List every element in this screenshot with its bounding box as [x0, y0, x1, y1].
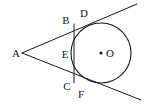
point-label-F: F	[78, 89, 84, 100]
point-label-O: O	[106, 48, 114, 59]
point-label-E: E	[62, 49, 69, 60]
geometry-figure: A B D E C F O	[0, 0, 144, 106]
point-label-C: C	[63, 81, 70, 92]
point-label-A: A	[12, 48, 20, 59]
point-label-D: D	[80, 8, 88, 19]
geometry-canvas	[0, 0, 144, 106]
point-label-B: B	[62, 15, 69, 26]
center-point-O	[99, 51, 102, 54]
